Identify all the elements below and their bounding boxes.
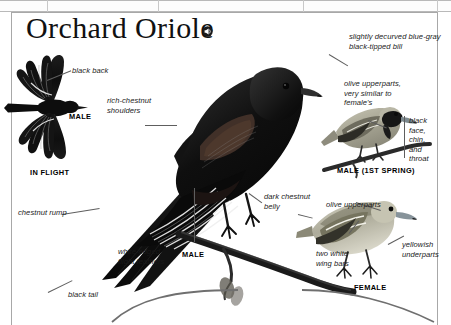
branch-lower-right <box>300 288 436 325</box>
caption-perched-male: MALE <box>182 250 204 259</box>
callout-white-edged-flight-feathers: white-edged flight feathers <box>118 247 164 266</box>
caption-female: FEMALE <box>354 283 386 292</box>
grid-line-horizontal-top <box>0 0 451 1</box>
callout-chestnut-rump: chestnut rump <box>18 208 67 218</box>
callout-black-face-chin-throat: black face, chin, and throat <box>409 116 429 164</box>
callout-decurved-bill: slightly decurved blue-gray black-tipped… <box>349 32 441 51</box>
callout-black-back: black back <box>72 66 108 76</box>
callout-two-white-wing-bars: two white wing bars <box>316 249 349 268</box>
field-guide-plate: Orchard Oriole <box>0 0 451 325</box>
caption-male-first-spring: MALE (1ST SPRING) <box>337 166 415 175</box>
callout-rich-chestnut-shoulders: rich-chestnut shoulders <box>107 96 151 115</box>
leader-line-black-face <box>404 116 405 158</box>
leader-line-chestnut-rump <box>62 208 100 215</box>
leader-line-rich-chestnut <box>145 125 177 126</box>
caption-in-flight: IN FLIGHT <box>30 168 69 177</box>
callout-olive-upperparts-female: olive upperparts <box>326 200 381 210</box>
grid-line-vertical-4 <box>437 0 438 12</box>
grid-line-vertical-3 <box>303 0 304 12</box>
caption-flight-male: MALE <box>69 112 91 121</box>
page-rule-right <box>437 12 438 325</box>
callout-olive-upperparts-first-spring: olive upperparts, very similar to female… <box>344 79 401 108</box>
branch-lower-left <box>110 288 240 325</box>
leader-line-white-edged <box>194 188 195 242</box>
callout-dark-chestnut-belly: dark chestnut belly <box>264 192 310 211</box>
callout-black-tail: black tail <box>68 290 98 300</box>
callout-yellowish-underparts: yellowish underparts <box>402 240 439 259</box>
leader-line-decurved-bill <box>329 54 348 66</box>
